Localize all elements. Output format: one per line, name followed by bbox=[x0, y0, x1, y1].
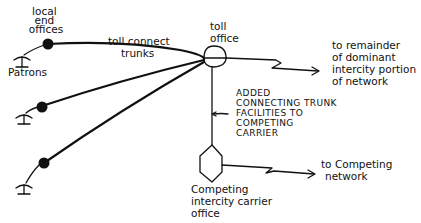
toll-office-label: toll office bbox=[210, 20, 239, 44]
toll-connect-trunk bbox=[44, 62, 204, 163]
toll-connect-trunk bbox=[42, 60, 204, 106]
local-end-office bbox=[37, 102, 48, 113]
competing-carrier-office-node bbox=[200, 145, 222, 182]
competing-network-label: to Competing network bbox=[321, 158, 396, 182]
toll-office-node bbox=[204, 46, 226, 67]
local-end-offices-label: local end offices bbox=[29, 5, 63, 35]
remainder-network-label: to remainder of dominant intercity porti… bbox=[332, 39, 419, 87]
network-diagram: local end offices Patrons toll connect t… bbox=[0, 0, 421, 223]
lightning-arrow bbox=[226, 58, 318, 71]
added-trunk-caption: ADDED CONNECTING TRUNK FACILITIES TO COM… bbox=[236, 88, 340, 138]
pointer-arrow bbox=[213, 114, 228, 115]
lightning-arrow bbox=[222, 165, 314, 174]
local-end-office bbox=[43, 39, 54, 50]
telephone-icon bbox=[16, 185, 32, 194]
competing-office-label: Competing intercity carrier office bbox=[191, 183, 275, 219]
telephone-icon bbox=[16, 115, 32, 124]
local-end-office bbox=[39, 158, 50, 169]
patrons-label: Patrons bbox=[8, 66, 47, 78]
subscriber-line bbox=[26, 164, 40, 183]
